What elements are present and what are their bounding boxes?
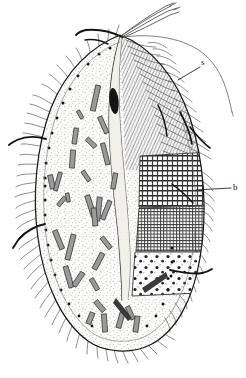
- ciliate-illustration: [0, 0, 246, 378]
- figure-canvas: s b: [0, 0, 246, 378]
- zone-fine-grid: [136, 206, 207, 251]
- label-b: b: [233, 183, 238, 192]
- label-s: s: [201, 58, 205, 67]
